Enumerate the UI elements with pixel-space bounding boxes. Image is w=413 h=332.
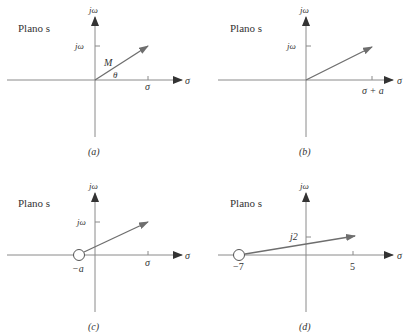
y-tick-label: jω: [286, 41, 296, 51]
vector-arrow: [95, 46, 148, 80]
panel-caption: (c): [88, 321, 100, 332]
panel-c: Plano s jω σ jω σ −a (c): [7, 181, 191, 332]
vector-arrow: [245, 236, 355, 254]
x-tick-label: σ: [145, 257, 151, 268]
zero-label: −a: [72, 263, 84, 274]
x-axis-label: σ: [185, 75, 191, 86]
vector-arrow: [84, 222, 148, 252]
x-tick-label: 5: [350, 261, 355, 272]
panel-caption: (d): [299, 321, 311, 332]
angle-label: θ: [113, 70, 118, 80]
x-axis-label: σ: [397, 250, 403, 261]
x-tick-label: σ: [145, 81, 151, 92]
zero-marker: [234, 250, 245, 261]
y-axis-label: jω: [88, 5, 98, 15]
vector-arrow: [306, 47, 372, 80]
x-axis-label: σ: [185, 250, 191, 261]
zero-marker: [74, 250, 85, 261]
y-tick-label: jω: [74, 41, 84, 51]
y-axis-label: jω: [88, 181, 98, 191]
s-plane-figure: Plano s jω σ jω σ M θ (a) Plano s jω σ j…: [0, 0, 413, 332]
panel-a: Plano s jω σ jω σ M θ (a): [7, 5, 191, 158]
magnitude-label: M: [103, 57, 113, 68]
panel-b: Plano s jω σ jω σ + a (b): [218, 5, 403, 158]
plane-label: Plano s: [230, 197, 262, 209]
panel-caption: (a): [88, 146, 100, 158]
y-tick-label: j2: [288, 231, 298, 242]
y-axis-label: jω: [299, 181, 309, 191]
x-axis-label: σ: [397, 75, 403, 86]
plane-label: Plano s: [18, 197, 50, 209]
plane-label: Plano s: [230, 22, 262, 34]
x-tick-label: σ + a: [362, 85, 384, 96]
panel-caption: (b): [299, 146, 311, 158]
plane-label: Plano s: [18, 22, 50, 34]
y-axis-label: jω: [299, 5, 309, 15]
zero-label: −7: [233, 261, 244, 272]
panel-d: Plano s jω σ j2 5 −7 (d): [218, 181, 403, 332]
y-tick-label: jω: [76, 217, 86, 227]
